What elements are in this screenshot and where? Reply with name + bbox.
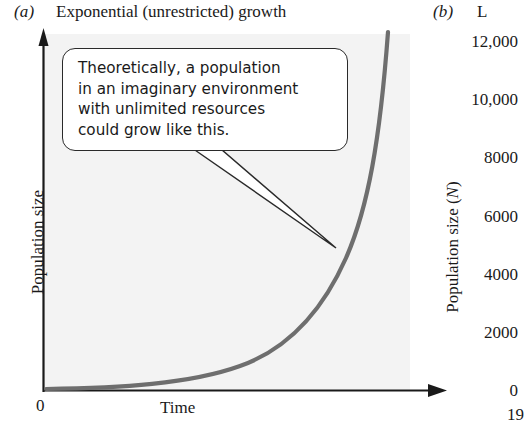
panel-b-ytick-12000: 12,000 <box>471 32 518 52</box>
panel-b-ytick-6000: 6000 <box>484 207 518 227</box>
panel-b-ytick-2000: 2000 <box>484 323 518 343</box>
panel-a-y-axis-label: Population size <box>28 142 48 342</box>
panel-b-ytick-8000: 8000 <box>484 148 518 168</box>
panel-b-y-axis-label-symbol: N <box>443 187 462 198</box>
panel-a-exponential-growth: (a) Exponential (unrestricted) growth Th… <box>0 0 455 443</box>
panel-a-x-axis-label: Time <box>160 398 195 418</box>
panel-a-origin-tick: 0 <box>36 396 45 416</box>
panel-b-y-axis-label-prefix: Population size ( <box>443 198 462 312</box>
panel-b-logistic-growth: (b) L Population size (N) 12,000 10,000 … <box>420 0 510 443</box>
panel-b-ytick-10000: 10,000 <box>471 90 518 110</box>
panel-b-ytick-0: 0 <box>510 381 519 401</box>
panel-b-label: (b) <box>433 2 453 22</box>
callout-pointer <box>192 148 336 248</box>
panel-b-title: L <box>477 2 487 22</box>
panel-b-xtick-partial: 19 <box>507 405 524 425</box>
panel-b-y-axis-label: Population size (N) <box>443 130 463 365</box>
panel-b-y-axis-label-suffix: ) <box>443 181 462 187</box>
panel-b-ytick-4000: 4000 <box>484 265 518 285</box>
callout-text: Theoretically, a population in an imagin… <box>78 59 298 139</box>
callout-bubble: Theoretically, a population in an imagin… <box>62 48 348 151</box>
